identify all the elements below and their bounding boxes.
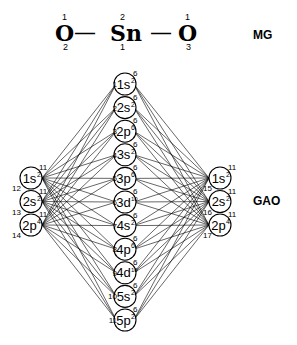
orbital-label: 1s xyxy=(117,77,131,92)
center-orbital-2p: 2p663 xyxy=(113,116,138,142)
orbital-index: 15 xyxy=(203,184,212,193)
atom-group-number: 6 xyxy=(133,258,138,267)
orbital-label: 3p xyxy=(116,171,130,186)
orbital-index: 12 xyxy=(12,184,21,193)
center-orbital-3p: 3p665 xyxy=(113,163,138,189)
occupancy-superscript: 2 xyxy=(37,171,41,178)
orbital-label: 2s xyxy=(23,194,37,209)
orbital-label: 2s xyxy=(212,194,226,209)
atom-group-number: 6 xyxy=(133,234,138,243)
atom-group-number: 6 xyxy=(133,281,138,290)
center-orbital-2s: 2s262 xyxy=(113,93,138,119)
center-orbital-4p: 4p668 xyxy=(113,234,138,260)
orbital-index: 2 xyxy=(113,104,118,113)
atom-group-number: 11 xyxy=(39,187,48,196)
center-orbital-5s: 5s2610 xyxy=(108,281,138,307)
orbital-label: 2p xyxy=(211,218,225,233)
orbital-label: 3s xyxy=(117,147,131,162)
occupancy-superscript: 2 xyxy=(226,171,230,178)
orbital-index: 9 xyxy=(113,269,118,278)
orbital-label: 2p xyxy=(116,124,130,139)
occupancy-superscript: 2 xyxy=(131,148,135,155)
orbital-label: 5p xyxy=(116,313,130,328)
orbital-index: 3 xyxy=(113,127,118,136)
atom-group-number: 6 xyxy=(133,211,138,220)
orbital-label: 4d xyxy=(116,265,130,280)
atom-group-number: 6 xyxy=(133,305,138,314)
orbital-index: 10 xyxy=(108,292,117,301)
orbital-index: 13 xyxy=(12,208,21,217)
orbital-connection-diagram: 1s2612s2622p6633s2643p6653d10664s2674p66… xyxy=(0,0,297,345)
orbital-index: 1 xyxy=(113,80,118,89)
atom-group-number: 11 xyxy=(228,210,237,219)
occupancy-superscript: 2 xyxy=(226,195,230,202)
occupancy-superscript: 4 xyxy=(226,218,230,225)
occupancy-superscript: 2 xyxy=(131,313,135,320)
occupancy-superscript: 2 xyxy=(131,289,135,296)
orbital-index: 16 xyxy=(203,208,212,217)
orbital-index: 11 xyxy=(109,316,118,325)
atom-group-number: 6 xyxy=(133,140,138,149)
center-orbital-3s: 3s264 xyxy=(113,140,138,166)
occupancy-superscript: 2 xyxy=(131,77,135,84)
orbital-label: 3d xyxy=(116,195,130,210)
atom-group-number: 11 xyxy=(228,187,237,196)
occupancy-superscript: 2 xyxy=(37,195,41,202)
atom-group-number: 11 xyxy=(39,163,48,172)
orbital-index: 6 xyxy=(113,198,118,207)
orbital-index: 4 xyxy=(113,151,118,160)
orbital-index: 14 xyxy=(12,231,21,240)
orbital-label: 4s xyxy=(117,218,131,233)
atom-group-number: 11 xyxy=(39,210,48,219)
center-orbital-4d: 4d1069 xyxy=(113,258,139,284)
orbital-label: 1s xyxy=(23,171,37,186)
atom-group-number: 6 xyxy=(133,163,138,172)
center-orbital-5p: 5p2611 xyxy=(109,305,138,331)
occupancy-superscript: 10 xyxy=(131,196,138,202)
atom-group-number: 6 xyxy=(133,69,138,78)
center-orbital-3d: 3d1066 xyxy=(113,187,139,213)
orbital-index: 7 xyxy=(113,222,118,231)
occupancy-superscript: 2 xyxy=(131,219,135,226)
orbital-index: 8 xyxy=(113,245,118,254)
occupancy-superscript: 4 xyxy=(37,218,41,225)
atom-group-number: 6 xyxy=(133,93,138,102)
orbital-label: 4p xyxy=(116,242,130,257)
center-orbital-4s: 4s267 xyxy=(113,211,138,237)
atom-group-number: 11 xyxy=(228,163,237,172)
occupancy-superscript: 2 xyxy=(131,101,135,108)
atom-group-number: 6 xyxy=(133,187,138,196)
orbital-label: 2s xyxy=(117,100,131,115)
orbital-label: 2p xyxy=(22,218,36,233)
orbital-index: 17 xyxy=(203,231,212,240)
occupancy-superscript: 6 xyxy=(131,124,135,131)
occupancy-superscript: 6 xyxy=(131,242,135,249)
occupancy-superscript: 6 xyxy=(131,171,135,178)
orbital-label: 1s xyxy=(212,171,226,186)
orbital-index: 5 xyxy=(113,174,118,183)
center-orbital-1s: 1s261 xyxy=(113,69,138,95)
occupancy-superscript: 10 xyxy=(131,267,138,273)
atom-group-number: 6 xyxy=(133,116,138,125)
orbital-label: 5s xyxy=(117,289,131,304)
